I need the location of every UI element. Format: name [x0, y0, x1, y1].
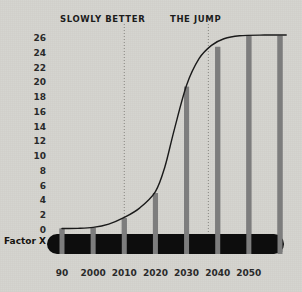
- bar-overlay-2040: [215, 47, 220, 254]
- plot-area: [0, 0, 302, 292]
- marker-lines-group: [124, 24, 208, 240]
- bar-overlay-2010: [122, 218, 127, 254]
- bar-overlay-2030: [184, 87, 189, 254]
- bar-overlay-2000: [91, 228, 96, 254]
- bar-overlay-90: [60, 229, 65, 254]
- baseline-bar: [47, 36, 284, 254]
- bar-overlay-2020: [153, 193, 158, 254]
- chart-container: SLOWLY BETTER THE JUMP 26242220181614121…: [0, 0, 302, 292]
- bar-overlay-x2060: [278, 36, 283, 254]
- trend-curve-group: [62, 35, 286, 229]
- bar-overlay-2050: [246, 36, 251, 254]
- trend-curve: [62, 35, 286, 229]
